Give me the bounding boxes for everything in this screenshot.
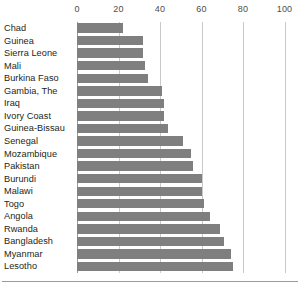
x-axis-tick-labels: 020406080100 <box>0 4 302 20</box>
category-label: Guinea <box>4 35 75 48</box>
category-label: Iraq <box>4 97 75 110</box>
bar-row <box>77 85 285 98</box>
y-axis-category-labels: ChadGuineaSierra LeoneMaliBurkina FasoGa… <box>4 22 75 273</box>
bar-row <box>77 135 285 148</box>
bar-row <box>77 185 285 198</box>
bar <box>77 187 202 196</box>
bar-row <box>77 198 285 211</box>
bar <box>77 174 202 183</box>
bar <box>77 111 164 120</box>
x-tick-label-80: 80 <box>238 4 248 15</box>
category-label: Rwanda <box>4 223 75 236</box>
bar-row <box>77 260 285 273</box>
x-tick-label-40: 40 <box>155 4 165 15</box>
bar <box>77 61 145 70</box>
bar-row <box>77 97 285 110</box>
bar-row <box>77 235 285 248</box>
bar-row <box>77 110 285 123</box>
category-label: Mali <box>4 60 75 73</box>
bar <box>77 161 193 170</box>
bar-row <box>77 47 285 60</box>
category-label: Myanmar <box>4 248 75 261</box>
bar-row <box>77 35 285 48</box>
category-label: Angola <box>4 210 75 223</box>
bars-layer <box>77 22 285 273</box>
bar <box>77 74 148 83</box>
category-label: Guinea-Bissau <box>4 122 75 135</box>
category-label: Chad <box>4 22 75 35</box>
category-label: Malawi <box>4 185 75 198</box>
bar-chart-figure: 020406080100 ChadGuineaSierra LeoneMaliB… <box>0 0 302 289</box>
bar <box>77 99 164 108</box>
bar <box>77 48 143 57</box>
category-label: Bangladesh <box>4 235 75 248</box>
bar <box>77 124 168 133</box>
bar-row <box>77 223 285 236</box>
bar <box>77 23 123 32</box>
category-label: Mozambique <box>4 148 75 161</box>
category-label: Ivory Coast <box>4 110 75 123</box>
x-tick-label-60: 60 <box>196 4 206 15</box>
bar-row <box>77 248 285 261</box>
bar-row <box>77 72 285 85</box>
category-label: Lesotho <box>4 260 75 273</box>
bar <box>77 149 191 158</box>
category-label: Gambia, The <box>4 85 75 98</box>
bar <box>77 237 224 246</box>
category-label: Senegal <box>4 135 75 148</box>
bar <box>77 262 233 271</box>
bar-row <box>77 60 285 73</box>
x-tick-label-100: 100 <box>277 4 293 15</box>
category-label: Burkina Faso <box>4 72 75 85</box>
bar-row <box>77 160 285 173</box>
bar <box>77 199 204 208</box>
bar <box>77 212 210 221</box>
gridline-100 <box>285 22 286 273</box>
bar <box>77 224 220 233</box>
category-label: Sierra Leone <box>4 47 75 60</box>
x-tick-label-0: 0 <box>74 4 79 15</box>
plot-area <box>77 22 285 273</box>
bar-row <box>77 148 285 161</box>
bar <box>77 136 183 145</box>
bar <box>77 249 231 258</box>
x-tick-label-20: 20 <box>113 4 123 15</box>
category-label: Togo <box>4 198 75 211</box>
category-label: Pakistan <box>4 160 75 173</box>
bar <box>77 86 162 95</box>
bar-row <box>77 173 285 186</box>
bar-row <box>77 22 285 35</box>
category-label: Burundi <box>4 173 75 186</box>
bar <box>77 36 143 45</box>
bar-row <box>77 122 285 135</box>
bar-row <box>77 210 285 223</box>
bottom-divider <box>2 281 298 282</box>
